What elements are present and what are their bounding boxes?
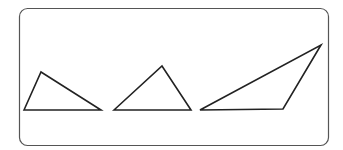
diagram-canvas — [0, 0, 343, 150]
triangle-2 — [114, 66, 191, 110]
triangle-1 — [24, 72, 101, 110]
triangle-3 — [200, 45, 321, 110]
frame-border — [20, 9, 329, 146]
